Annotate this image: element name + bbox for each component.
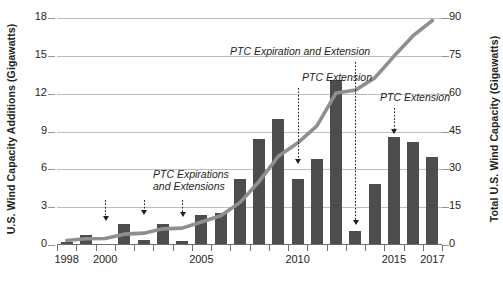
y-tick-mark-right [442, 56, 449, 57]
y-tick-label-right: 75 [449, 48, 489, 60]
annotation-arrowhead [353, 220, 359, 225]
annotation-arrowhead [180, 212, 186, 217]
annotation-ptc-extension-2015: PTC Extension [380, 91, 450, 103]
annotation-leader [144, 200, 145, 210]
x-tick-mark [211, 245, 212, 251]
y-tick-label-left: 9 [7, 124, 47, 136]
annotation-arrowhead [141, 210, 147, 215]
y-tick-mark-right [442, 169, 449, 170]
annotation-ptc-expirations-and-extensions: PTC Expirationsand Extensions [153, 168, 229, 192]
annotation-leader [182, 200, 183, 212]
x-tick-mark [346, 245, 347, 251]
x-tick-label: 1998 [54, 253, 78, 265]
y-tick-label-left: 0 [7, 237, 47, 249]
y-tick-label-right: 0 [449, 237, 489, 249]
annotation-text-line: PTC Extension [380, 91, 450, 103]
x-tick-mark [442, 245, 443, 251]
x-tick-mark [404, 245, 405, 251]
y-tick-label-left: 6 [7, 161, 47, 173]
y-tick-mark-left [48, 245, 55, 246]
y-axis-right-title: Total U.S. Wind Capacity (Gigawatts) [488, 14, 500, 244]
y-tick-mark-left [48, 169, 55, 170]
annotation-arrowhead [391, 129, 397, 134]
x-tick-mark [192, 245, 193, 251]
x-tick-mark [153, 245, 154, 251]
plot-area: PTC Expirationsand ExtensionsPTC Extensi… [57, 18, 442, 245]
y-tick-mark-left [48, 132, 55, 133]
annotation-leader [105, 200, 106, 216]
y-tick-label-right: 90 [449, 10, 489, 22]
y-tick-mark-right [442, 18, 449, 19]
x-tick-mark [115, 245, 116, 251]
y-tick-label-left: 15 [7, 48, 47, 60]
x-tick-mark [327, 245, 328, 251]
x-tick-mark [57, 245, 58, 251]
y-tick-mark-left [48, 207, 55, 208]
y-tick-mark-right [442, 245, 449, 246]
wind-capacity-chart: U.S. Wind Capacity Additions (Gigawatts)… [0, 0, 503, 283]
y-tick-mark-right [442, 207, 449, 208]
y-tick-label-right: 60 [449, 86, 489, 98]
x-tick-label: 2017 [420, 253, 444, 265]
y-tick-label-left: 18 [7, 10, 47, 22]
y-tick-mark-right [442, 132, 449, 133]
annotation-ptc-expiration-and-extension-2013: PTC Expiration and Extension [230, 45, 370, 57]
y-tick-mark-left [48, 18, 55, 19]
x-tick-mark [307, 245, 308, 251]
annotation-text-line: PTC Expiration and Extension [230, 45, 370, 57]
annotation-arrowhead [295, 159, 301, 164]
x-tick-mark [76, 245, 77, 251]
x-tick-mark [230, 245, 231, 251]
y-tick-label-right: 15 [449, 199, 489, 211]
y-tick-label-right: 45 [449, 124, 489, 136]
x-tick-mark [384, 245, 385, 251]
x-tick-mark [365, 245, 366, 251]
y-tick-label-left: 12 [7, 86, 47, 98]
x-tick-label: 2010 [285, 253, 309, 265]
y-tick-mark-left [48, 56, 55, 57]
y-tick-label-left: 3 [7, 199, 47, 211]
annotation-text-line: and Extensions [153, 180, 229, 192]
annotation-text-line: PTC Extension [302, 71, 372, 83]
x-tick-mark [269, 245, 270, 251]
x-tick-mark [173, 245, 174, 251]
x-axis-ticks [57, 245, 442, 252]
x-tick-label: 2000 [93, 253, 117, 265]
x-tick-mark [250, 245, 251, 251]
x-tick-mark [134, 245, 135, 251]
annotation-arrowhead [103, 216, 109, 221]
annotation-leader [394, 108, 395, 129]
annotation-leader [355, 62, 356, 220]
annotation-leader [298, 88, 299, 159]
x-tick-mark [423, 245, 424, 251]
y-tick-label-right: 30 [449, 161, 489, 173]
annotation-text-line: PTC Expirations [153, 168, 229, 180]
x-tick-label: 2005 [189, 253, 213, 265]
x-tick-mark [96, 245, 97, 251]
x-tick-mark [288, 245, 289, 251]
x-axis-labels: 199820002005201020152017 [0, 253, 503, 271]
x-tick-label: 2015 [382, 253, 406, 265]
y-tick-mark-left [48, 94, 55, 95]
annotation-ptc-extension-2010: PTC Extension [302, 71, 372, 83]
